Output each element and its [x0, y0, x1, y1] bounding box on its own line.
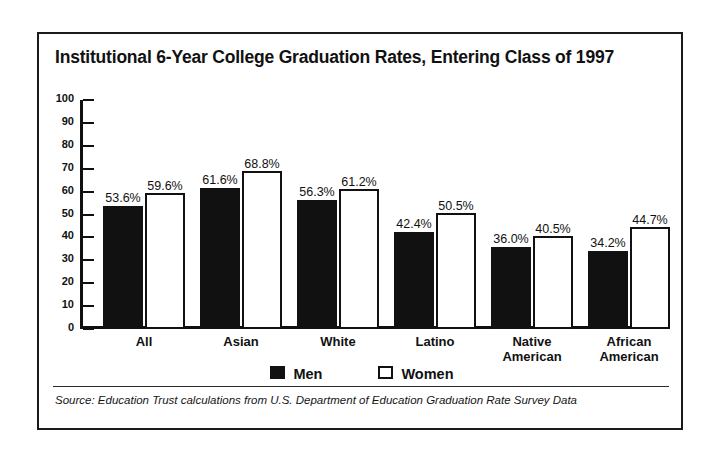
category-label-line: American [574, 349, 684, 364]
plot-area: 1009080706050403020100 53.6%59.6%61.6%68… [80, 100, 668, 329]
bar-value-label: 42.4% [396, 217, 431, 231]
bar-group: 56.3%61.2% [297, 100, 379, 329]
y-axis-tick-label: 80 [62, 138, 74, 150]
category-label-white: White [283, 334, 393, 349]
bar-men: 42.4% [394, 232, 434, 329]
category-label-latino: Latino [380, 334, 490, 349]
y-axis-tick-label: 0 [68, 321, 74, 333]
bar-men: 56.3% [297, 200, 337, 329]
y-axis-tick-label: 40 [62, 229, 74, 241]
category-label-line: Latino [380, 334, 490, 349]
category-label-line: American [477, 349, 587, 364]
y-axis-tick-label: 70 [62, 161, 74, 173]
outlined-square-icon [378, 366, 393, 379]
y-axis-tick-label: 100 [56, 92, 74, 104]
chart-title: Institutional 6-Year College Graduation … [55, 47, 669, 68]
category-label-line: African [574, 334, 684, 349]
bar-women: 44.7% [630, 227, 670, 329]
bar-women: 61.2% [339, 189, 379, 329]
bar-men: 53.6% [103, 206, 143, 329]
category-label-line: White [283, 334, 393, 349]
chart-figure-frame: Institutional 6-Year College Graduation … [37, 32, 683, 430]
bars-layer: 53.6%59.6%61.6%68.8%56.3%61.2%42.4%50.5%… [80, 100, 668, 329]
category-label-line: All [89, 334, 199, 349]
chart-legend: MenWomen [39, 363, 685, 382]
bar-value-label: 53.6% [105, 191, 140, 205]
y-axis-tick-label: 10 [62, 298, 74, 310]
source-note: Source: Education Trust calculations fro… [55, 394, 671, 406]
bar-value-label: 40.5% [535, 222, 570, 236]
bar-women: 59.6% [145, 193, 185, 329]
legend-item-women[interactable]: Women [378, 364, 453, 382]
bar-men: 61.6% [200, 188, 240, 329]
legend-label: Women [401, 366, 453, 382]
bar-value-label: 61.2% [341, 175, 376, 189]
y-axis-tick-label: 30 [62, 252, 74, 264]
bar-men: 34.2% [588, 251, 628, 329]
category-label-line: Asian [186, 334, 296, 349]
category-label-line: Native [477, 334, 587, 349]
category-label-all: All [89, 334, 199, 349]
category-label-native-american: NativeAmerican [477, 334, 587, 364]
category-label-asian: Asian [186, 334, 296, 349]
bar-value-label: 34.2% [590, 236, 625, 250]
bar-value-label: 61.6% [202, 173, 237, 187]
bar-value-label: 36.0% [493, 232, 528, 246]
bar-men: 36.0% [491, 247, 531, 329]
y-axis-tick-label: 60 [62, 184, 74, 196]
bar-value-label: 56.3% [299, 185, 334, 199]
bar-group: 42.4%50.5% [394, 100, 476, 329]
source-divider [53, 386, 669, 387]
bar-value-label: 44.7% [632, 213, 667, 227]
bar-women: 68.8% [242, 171, 282, 329]
category-label-african-american: AfricanAmerican [574, 334, 684, 364]
bar-group: 36.0%40.5% [491, 100, 573, 329]
legend-item-men[interactable]: Men [270, 364, 322, 382]
bar-group: 34.2%44.7% [588, 100, 670, 329]
y-axis-tick-label: 20 [62, 275, 74, 287]
filled-square-icon [270, 366, 285, 379]
bar-group: 53.6%59.6% [103, 100, 185, 329]
y-axis-tick-label: 50 [62, 207, 74, 219]
bar-group: 61.6%68.8% [200, 100, 282, 329]
legend-label: Men [293, 366, 322, 382]
bar-value-label: 68.8% [244, 157, 279, 171]
bar-women: 50.5% [436, 213, 476, 329]
y-axis-tick-label: 90 [62, 115, 74, 127]
bar-value-label: 50.5% [438, 199, 473, 213]
bar-value-label: 59.6% [147, 179, 182, 193]
bar-women: 40.5% [533, 236, 573, 329]
